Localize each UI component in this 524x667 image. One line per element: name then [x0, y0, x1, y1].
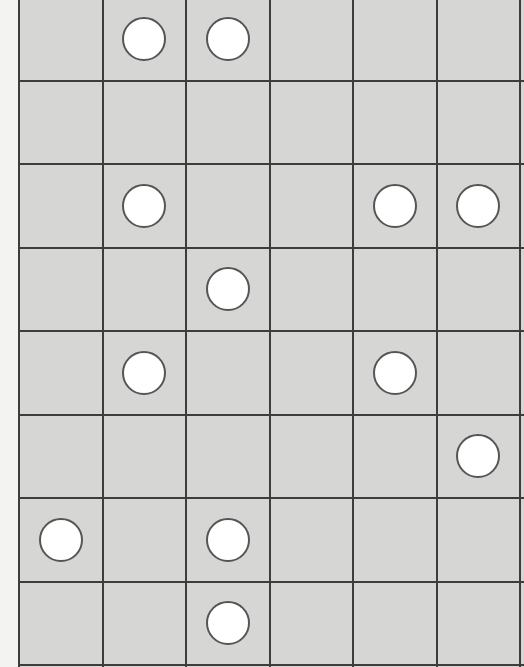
board-cell[interactable]: [353, 498, 437, 582]
board-cell[interactable]: [103, 164, 187, 248]
board-cell[interactable]: [186, 331, 270, 415]
white-circle-piece[interactable]: [206, 17, 250, 61]
grid-line-vertical: [269, 0, 271, 667]
board-cell[interactable]: [103, 81, 187, 165]
board-cell[interactable]: [19, 0, 103, 81]
board-cell[interactable]: [186, 498, 270, 582]
white-circle-piece[interactable]: [122, 17, 166, 61]
white-circle-piece[interactable]: [122, 351, 166, 395]
board-cell[interactable]: [353, 81, 437, 165]
grid-line-vertical: [102, 0, 104, 667]
board-cell[interactable]: [19, 331, 103, 415]
board-cell[interactable]: [270, 248, 354, 332]
board-cell[interactable]: [270, 498, 354, 582]
board-cell[interactable]: [19, 498, 103, 582]
grid-line-horizontal: [19, 414, 524, 416]
board-cell[interactable]: [19, 81, 103, 165]
board-cell[interactable]: [353, 415, 437, 499]
board-cell[interactable]: [437, 498, 521, 582]
board-cell[interactable]: [103, 0, 187, 81]
board-cell[interactable]: [270, 415, 354, 499]
grid-line-horizontal: [19, 497, 524, 499]
board-cell[interactable]: [186, 81, 270, 165]
game-board: [19, 0, 524, 667]
board-cell[interactable]: [19, 164, 103, 248]
board-cell[interactable]: [186, 248, 270, 332]
board-cell[interactable]: [353, 248, 437, 332]
board-cell[interactable]: [353, 164, 437, 248]
white-circle-piece[interactable]: [206, 518, 250, 562]
grid-line-horizontal: [19, 664, 524, 666]
board-cell[interactable]: [437, 582, 521, 666]
board-cell[interactable]: [437, 0, 521, 81]
white-circle-piece[interactable]: [456, 434, 500, 478]
white-circle-piece[interactable]: [456, 184, 500, 228]
grid-line-vertical: [519, 0, 521, 667]
white-circle-piece[interactable]: [206, 267, 250, 311]
board-cell[interactable]: [19, 582, 103, 666]
grid-line-horizontal: [19, 581, 524, 583]
grid-line-vertical: [185, 0, 187, 667]
board-cell[interactable]: [103, 415, 187, 499]
board-cell[interactable]: [437, 248, 521, 332]
white-circle-piece[interactable]: [122, 184, 166, 228]
board-cell[interactable]: [437, 81, 521, 165]
board-cell[interactable]: [103, 582, 187, 666]
board-cell[interactable]: [103, 331, 187, 415]
board-cell[interactable]: [270, 81, 354, 165]
grid-line-vertical: [436, 0, 438, 667]
white-circle-piece[interactable]: [373, 351, 417, 395]
board-cell[interactable]: [353, 0, 437, 81]
grid-line-horizontal: [19, 163, 524, 165]
board-cell[interactable]: [437, 331, 521, 415]
board-cell[interactable]: [353, 331, 437, 415]
board-cell[interactable]: [19, 248, 103, 332]
white-circle-piece[interactable]: [373, 184, 417, 228]
white-circle-piece[interactable]: [206, 601, 250, 645]
grid-line-horizontal: [19, 80, 524, 82]
grid-line-horizontal: [19, 330, 524, 332]
board-cell[interactable]: [437, 415, 521, 499]
board-cell[interactable]: [19, 415, 103, 499]
board-cell[interactable]: [437, 164, 521, 248]
board-cell[interactable]: [270, 331, 354, 415]
board-cell[interactable]: [270, 0, 354, 81]
board-cell[interactable]: [103, 248, 187, 332]
grid-line-vertical: [18, 0, 20, 667]
board-cell[interactable]: [186, 0, 270, 81]
board-cell[interactable]: [186, 582, 270, 666]
board-cell[interactable]: [186, 415, 270, 499]
grid-line-vertical: [352, 0, 354, 667]
board-cell[interactable]: [353, 582, 437, 666]
white-circle-piece[interactable]: [39, 518, 83, 562]
board-cell[interactable]: [103, 498, 187, 582]
board-cell[interactable]: [270, 164, 354, 248]
board-cell[interactable]: [186, 164, 270, 248]
board-cell[interactable]: [270, 582, 354, 666]
grid-line-horizontal: [19, 247, 524, 249]
